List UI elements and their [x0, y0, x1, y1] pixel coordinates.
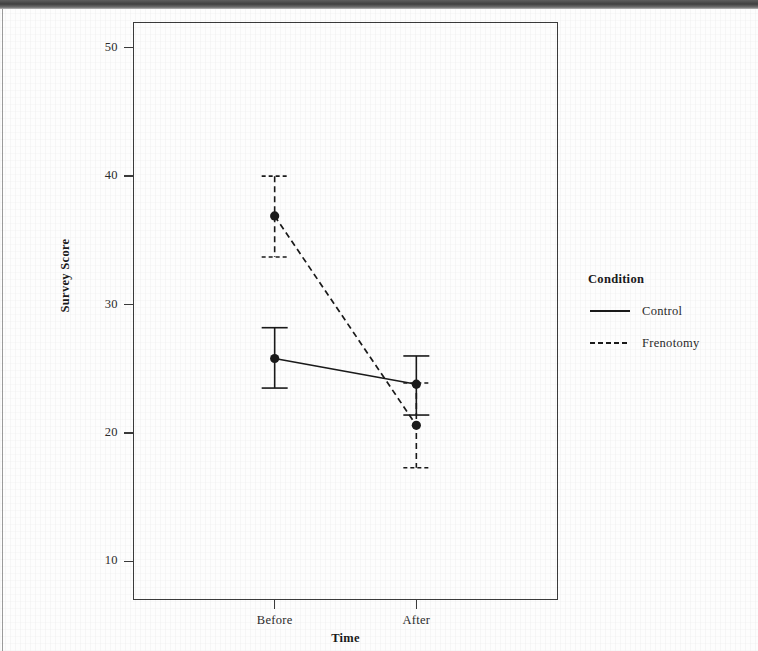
y-axis-tick-mark: [124, 47, 133, 48]
legend-entry-control[interactable]: Control: [588, 300, 748, 322]
x-axis-tick-label: Before: [215, 613, 335, 628]
legend-key-frenotomy: [588, 337, 632, 349]
survey-score-interaction-plot: 1020304050 Survey Score BeforeAfter Time…: [0, 0, 758, 651]
y-axis-tick-label: 40: [84, 168, 118, 183]
legend-entry-label: Frenotomy: [642, 336, 700, 351]
series-control: [262, 328, 430, 415]
legend: Condition ControlFrenotomy: [588, 272, 748, 364]
y-axis-tick-labels: 1020304050: [78, 0, 118, 651]
legend-entry-label: Control: [642, 304, 682, 319]
y-axis-tick-label: 30: [84, 297, 118, 312]
legend-entry-frenotomy[interactable]: Frenotomy: [588, 332, 748, 354]
series-frenotomy: [262, 176, 430, 468]
series-line-frenotomy: [275, 216, 417, 425]
legend-title: Condition: [588, 272, 748, 287]
x-axis-title: Time: [133, 631, 558, 646]
legend-entries: ControlFrenotomy: [588, 300, 748, 354]
x-axis-tick-mark: [274, 600, 275, 609]
y-axis-title: Survey Score: [58, 206, 73, 346]
data-point-control: [270, 354, 279, 363]
y-axis-tick-mark: [124, 304, 133, 305]
x-axis-tick-label: After: [356, 613, 476, 628]
legend-key-control: [588, 305, 632, 317]
series-line-control: [275, 359, 417, 385]
x-axis-tick-mark: [416, 600, 417, 609]
plot-data-layer: [133, 22, 558, 600]
y-axis-tick-label: 50: [84, 40, 118, 55]
data-point-frenotomy: [412, 421, 421, 430]
data-point-frenotomy: [270, 211, 279, 220]
y-axis-tick-label: 10: [84, 553, 118, 568]
y-axis-tick-mark: [124, 175, 133, 176]
y-axis-tick-label: 20: [84, 425, 118, 440]
y-axis-tick-mark: [124, 561, 133, 562]
y-axis-tick-mark: [124, 432, 133, 433]
